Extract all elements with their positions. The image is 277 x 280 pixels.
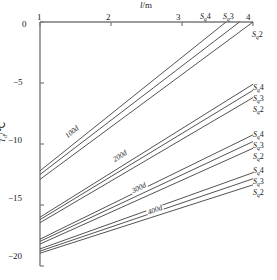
y-axis-title: Td/℃	[0, 122, 7, 142]
series-index: 3	[260, 177, 264, 186]
series-index: 2	[259, 30, 263, 39]
series-label-g2-sq2: Sq2	[253, 106, 264, 114]
y-tick-label-m15: −15	[8, 194, 22, 203]
x-axis-title-unit: /m	[143, 0, 153, 10]
series-subscript: q	[257, 192, 260, 198]
series-index: 4	[260, 166, 264, 175]
series-label-g3-sq2: Sq2	[253, 153, 264, 161]
series-line-400d-Sq3	[40, 179, 253, 251]
series-line-200d-Sq2	[40, 98, 253, 223]
series-subscript: q	[257, 87, 260, 93]
series-subscript: q	[257, 98, 260, 104]
series-index: 2	[260, 152, 264, 161]
series-line-400d-Sq2	[40, 185, 253, 253]
series-subscript: q	[227, 16, 230, 22]
y-tick-label-m10: −10	[8, 136, 22, 145]
x-tick-label-4: 4	[246, 13, 251, 22]
x-tick-label-3: 3	[176, 13, 181, 22]
series-subscript: q	[204, 16, 207, 22]
series-label-g1-sq2: Sq2	[252, 31, 263, 39]
series-subscript: q	[257, 109, 260, 115]
x-tick-label-1: 1	[37, 13, 42, 22]
series-label-g3-sq4: Sq4	[253, 131, 264, 139]
series-line-300d-Sq2	[40, 148, 253, 244]
series-index: 4	[207, 12, 211, 21]
series-index: 2	[260, 188, 264, 197]
x-tick-label-2: 2	[106, 13, 111, 22]
series-index: 3	[260, 141, 264, 150]
series-index: 2	[260, 105, 264, 114]
series-subscript: q	[257, 156, 260, 162]
series-line-100d-Sq4	[40, 22, 226, 171]
series-label-g2-sq3: Sq3	[253, 95, 264, 103]
series-line-200d-Sq3	[40, 90, 253, 219]
y-axis-title-unit: /℃	[0, 122, 7, 135]
y-tick-label-m5: −5	[13, 78, 23, 87]
y-tick-label-0: 0	[22, 20, 27, 29]
series-label-top-sq3: Sq3	[223, 13, 234, 21]
y-tick-label-m20: −20	[8, 252, 22, 261]
series-label-g4-sq2: Sq2	[253, 189, 264, 197]
series-label-g3-sq3: Sq3	[253, 142, 264, 150]
series-index: 4	[260, 130, 264, 139]
series-label-top-sq4: Sq4	[200, 13, 211, 21]
series-label-g2-sq4: Sq4	[253, 84, 264, 92]
series-line-100d-Sq3	[40, 22, 240, 175]
series-label-g4-sq3: Sq3	[253, 178, 264, 186]
chart-figure: l/m Td/℃ 1 2 3 4 0 −5 −10 −15 −20 Sq4 Sq…	[0, 0, 277, 280]
series-line-100d-Sq2	[40, 22, 253, 179]
series-index: 3	[230, 12, 234, 21]
series-subscript: q	[257, 181, 260, 187]
series-index: 3	[260, 94, 264, 103]
chart-canvas	[0, 0, 277, 280]
series-subscript: q	[257, 134, 260, 140]
y-axis-title-var: T	[0, 138, 7, 143]
x-axis-title: l/m	[140, 1, 152, 10]
series-index: 4	[260, 83, 264, 92]
series-subscript: q	[257, 145, 260, 151]
y-axis-title-subscript: d	[1, 135, 7, 138]
series-label-g4-sq4: Sq4	[253, 167, 264, 175]
series-subscript: q	[256, 34, 259, 40]
series-subscript: q	[257, 170, 260, 176]
series-line-300d-Sq3	[40, 142, 253, 242]
